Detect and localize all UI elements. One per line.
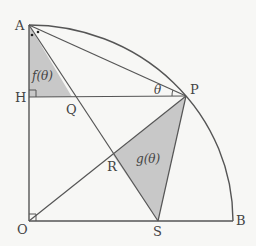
arc-AB [29,25,233,221]
angle-dot-1 [31,34,34,37]
label-O: O [17,222,28,237]
label-f-theta: f(θ) [31,69,53,83]
label-S: S [153,224,162,239]
label-B: B [236,213,246,228]
label-H: H [15,90,26,105]
geometry-diagram: A H Q P R O S B f(θ) g(θ) θ [0,0,256,246]
label-R: R [107,159,118,174]
label-P: P [190,82,199,97]
label-g-theta: g(θ) [136,152,161,166]
label-A: A [14,18,25,33]
label-theta: θ [154,83,162,97]
label-Q: Q [66,102,77,117]
angle-theta-arc [172,90,173,96]
angle-dot-2 [37,31,40,34]
